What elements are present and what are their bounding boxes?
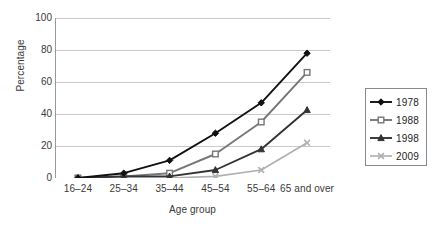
square-icon <box>258 119 264 125</box>
legend-label: 1998 <box>396 133 419 144</box>
square-icon <box>213 151 219 157</box>
series-line-1978 <box>78 53 307 178</box>
y-axis-tick-labels: 020406080100 <box>20 0 52 231</box>
line-chart: Percentage 020406080100 16–2425–3435–444… <box>0 0 435 231</box>
data-point-marker-x <box>304 140 310 146</box>
data-point-marker-square <box>378 117 384 123</box>
y-tick-label: 40 <box>26 108 52 119</box>
legend-item-1988[interactable]: 1988 <box>366 111 426 129</box>
data-point-marker-diamond <box>378 99 384 105</box>
data-point-marker-square <box>258 119 264 125</box>
y-tick-label: 20 <box>26 140 52 151</box>
legend-item-1978[interactable]: 1978 <box>366 93 426 111</box>
diamond-icon <box>378 99 384 105</box>
x-tick-label: 35–44 <box>155 183 183 194</box>
x-tick-label: 65 and over <box>280 183 334 194</box>
y-tick-label: 100 <box>26 12 52 23</box>
legend-label: 1988 <box>396 115 419 126</box>
x-tick-label: 55–64 <box>247 183 275 194</box>
square-icon <box>304 70 310 76</box>
legend-item-2009[interactable]: 2009 <box>366 147 426 165</box>
data-point-marker-square <box>213 151 219 157</box>
y-tick-label: 80 <box>26 44 52 55</box>
plot-area <box>55 18 330 178</box>
series-line-1998 <box>78 110 307 178</box>
data-point-marker-triangle <box>304 107 310 113</box>
legend-label: 1978 <box>396 97 419 108</box>
square-icon <box>378 117 384 123</box>
triangle-icon <box>304 107 310 113</box>
chart-legend: 1978198819982009 <box>365 88 427 166</box>
x-tick-label: 25–34 <box>110 183 138 194</box>
legend-label: 2009 <box>396 151 419 162</box>
plot-svg <box>55 18 330 178</box>
data-point-marker-square <box>304 70 310 76</box>
legend-swatch-square-icon <box>369 113 393 127</box>
y-tick-label: 0 <box>26 172 52 183</box>
legend-swatch-diamond-icon <box>369 95 393 109</box>
legend-swatch-triangle-icon <box>369 131 393 145</box>
x-icon <box>304 140 310 146</box>
y-tick-label: 60 <box>26 76 52 87</box>
x-axis-title: Age group <box>55 204 330 215</box>
x-axis-tick-labels: 16–2425–3435–4445–5455–6465 and over <box>55 183 330 199</box>
series-line-1988 <box>78 72 307 178</box>
x-tick-label: 45–54 <box>201 183 229 194</box>
x-tick-label: 16–24 <box>64 183 92 194</box>
legend-swatch-x-icon <box>369 149 393 163</box>
series-1998 <box>75 107 311 178</box>
legend-item-1998[interactable]: 1998 <box>366 129 426 147</box>
